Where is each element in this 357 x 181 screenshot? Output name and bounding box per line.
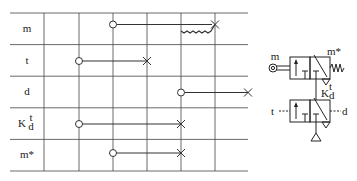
label-d: d [342, 105, 348, 117]
row-label-kd: K t d [18, 111, 34, 132]
signal-m [110, 21, 220, 34]
row-label-t: t [25, 54, 28, 66]
svg-text:d: d [329, 89, 335, 101]
supply-triangle-icon [311, 133, 321, 141]
arrow-up-icon [294, 59, 298, 64]
start-circle [76, 121, 83, 128]
valve-upper: m m* K t d [269, 45, 344, 101]
pilot-triangle-icon [322, 122, 330, 128]
row-label-mstar: m* [20, 148, 34, 160]
svg-text:d: d [28, 120, 34, 132]
arrow-up-icon [294, 102, 298, 107]
roller-icon [269, 64, 277, 72]
signal-kd [76, 120, 186, 128]
valve-lower: t d [271, 98, 348, 141]
valve-box-right [310, 100, 330, 122]
start-circle [76, 58, 83, 65]
spring-return-zigzag [181, 25, 215, 34]
label-mstar: m* [327, 45, 341, 57]
valve-box-left [290, 57, 310, 79]
valve-box-right [310, 57, 330, 79]
label-m: m [271, 50, 280, 62]
valve-box-left [290, 100, 310, 122]
row-label-m: m [23, 22, 32, 34]
start-circle [178, 89, 185, 96]
label-kd: K [321, 87, 329, 99]
start-circle [110, 150, 117, 157]
row-label-d: d [24, 85, 30, 97]
svg-text:K: K [18, 117, 26, 129]
start-circle [110, 21, 117, 28]
timing-diagram: m t d K t d m* [0, 0, 357, 181]
spring-icon [330, 64, 344, 72]
valve-symbol: m m* K t d [269, 45, 348, 141]
label-t: t [271, 105, 274, 117]
